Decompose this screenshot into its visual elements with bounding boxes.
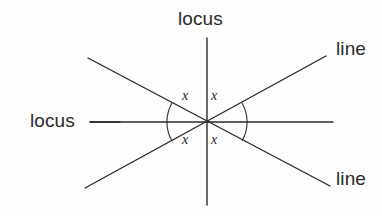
line-upper-right-label: line (336, 38, 366, 60)
angle-label-bottom-left: x (182, 132, 188, 148)
angle-label-bottom-right: x (211, 132, 217, 148)
angle-label-top-left: x (182, 88, 188, 104)
angle-label-top-right: x (211, 88, 217, 104)
figure-canvas (0, 0, 382, 216)
locus-top-label: locus (178, 8, 223, 30)
line-lower-right-label: line (336, 168, 366, 190)
geometry-figure: locus locus line line x x x x (0, 0, 382, 216)
locus-left-label: locus (30, 110, 75, 132)
